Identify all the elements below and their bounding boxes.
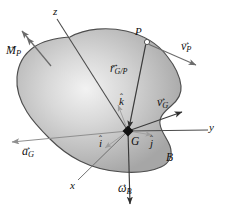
- velocity-of-g-symbol: v: [157, 95, 162, 109]
- moment-at-p-label: →MP: [6, 44, 21, 59]
- body-b-label: B: [166, 152, 173, 164]
- velocity-of-p-subscript: P: [186, 45, 191, 54]
- rigid-body-diagram: [0, 0, 225, 216]
- i-hat-label: ˆi: [99, 138, 102, 149]
- position-subscript: G/P: [114, 67, 127, 76]
- angular-velocity-symbol: ω: [118, 181, 126, 195]
- point-g-label: G: [131, 136, 139, 148]
- acceleration-of-g-label: →aG: [22, 145, 34, 160]
- point-p-label: P: [135, 26, 142, 37]
- velocity-of-p-label: →vP: [181, 40, 191, 55]
- point-p-marker: [144, 39, 149, 44]
- i-hat-symbol: i: [99, 137, 102, 149]
- acceleration-of-g-symbol: a: [22, 144, 28, 158]
- velocity-of-g-label: →vG: [157, 96, 168, 111]
- k-hat-symbol: k: [119, 95, 124, 107]
- j-hat-label: ˆj: [150, 138, 153, 149]
- angular-velocity-of-body-label: →ωB: [118, 182, 132, 197]
- velocity-of-p-symbol: v: [181, 39, 186, 53]
- position-symbol: r: [110, 62, 114, 74]
- axis-x-label: x: [70, 180, 75, 191]
- angular-velocity-subscript: B: [126, 187, 131, 196]
- velocity-of-g-subscript: G: [162, 101, 168, 110]
- acceleration-of-g-subscript: G: [28, 150, 34, 159]
- axis-z-label: z: [53, 6, 57, 17]
- j-hat-symbol: j: [150, 137, 153, 149]
- axis-y-label: y: [209, 122, 214, 133]
- moment-at-p-symbol: M: [6, 43, 16, 57]
- k-hat-label: ˆk: [119, 96, 124, 107]
- position-g-relative-p-label: →rG/P: [110, 63, 127, 76]
- moment-at-p-subscript: P: [16, 49, 21, 58]
